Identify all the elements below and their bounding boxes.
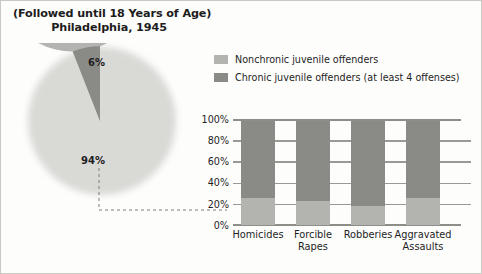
bar-segment-nonchronic-robberies bbox=[351, 206, 385, 225]
legend-swatch-chronic bbox=[214, 73, 228, 82]
bar-homicides bbox=[241, 121, 275, 226]
y-axis-labels: 100% 80% 60% 40% 20% 0% bbox=[191, 119, 229, 231]
bar-segment-nonchronic-forcible-rapes bbox=[296, 201, 330, 225]
y-tick-80 bbox=[461, 140, 471, 142]
y-tick-40 bbox=[461, 183, 471, 185]
bar-aggravated-assaults bbox=[406, 121, 440, 226]
y-axis-label-60: 60% bbox=[208, 156, 229, 167]
figure-panel: (Followed until 18 Years of Age) Philade… bbox=[0, 0, 482, 274]
bar-segment-nonchronic-aggravated-assaults bbox=[406, 198, 440, 225]
bar-segment-chronic-aggravated-assaults bbox=[406, 121, 440, 198]
pie-chart: 6% 94% bbox=[25, 43, 177, 195]
y-tick-60 bbox=[461, 161, 471, 163]
y-axis-label-40: 40% bbox=[208, 177, 229, 188]
bar-forcible-rapes bbox=[296, 121, 330, 226]
legend-label-chronic: Chronic juvenile offenders (at least 4 o… bbox=[235, 72, 460, 83]
bar-segment-nonchronic-homicides bbox=[241, 198, 275, 225]
legend-swatch-nonchronic bbox=[214, 55, 228, 64]
x-axis-label-forcible-rapes-line-2: Rapes bbox=[276, 241, 350, 253]
x-axis-label-aggravated-assaults: Aggravated Assaults bbox=[386, 229, 460, 253]
pie-data-label-chronic: 6% bbox=[88, 57, 105, 68]
chart-title: (Followed until 18 Years of Age) Philade… bbox=[11, 7, 219, 35]
y-axis-label-80: 80% bbox=[208, 135, 229, 146]
bar-segment-chronic-forcible-rapes bbox=[296, 121, 330, 202]
bar-segment-chronic-homicides bbox=[241, 121, 275, 198]
legend-label-nonchronic: Nonchronic juvenile offenders bbox=[235, 54, 378, 65]
legend: Nonchronic juvenile offenders Chronic ju… bbox=[214, 51, 460, 87]
y-tick-20 bbox=[461, 204, 471, 206]
y-axis-label-100: 100% bbox=[202, 114, 229, 125]
x-axis-labels: Homicides Forcible Rapes Robberies Aggra… bbox=[233, 229, 473, 269]
x-axis-label-aggravated-assaults-line-1: Aggravated bbox=[386, 229, 460, 241]
plot-area bbox=[233, 119, 461, 225]
y-axis-label-20: 20% bbox=[208, 199, 229, 210]
legend-item-chronic: Chronic juvenile offenders (at least 4 o… bbox=[214, 69, 460, 86]
chart-title-line-1: (Followed until 18 Years of Age) bbox=[11, 7, 219, 21]
pie-data-label-nonchronic: 94% bbox=[81, 155, 105, 166]
bar-chart: 100% 80% 60% 40% 20% 0% bbox=[191, 119, 479, 269]
legend-item-nonchronic: Nonchronic juvenile offenders bbox=[214, 51, 460, 68]
chart-title-line-2: Philadelphia, 1945 bbox=[11, 21, 219, 35]
bar-robberies bbox=[351, 121, 385, 226]
x-axis-label-aggravated-assaults-line-2: Assaults bbox=[386, 241, 460, 253]
bar-segment-chronic-robberies bbox=[351, 121, 385, 207]
